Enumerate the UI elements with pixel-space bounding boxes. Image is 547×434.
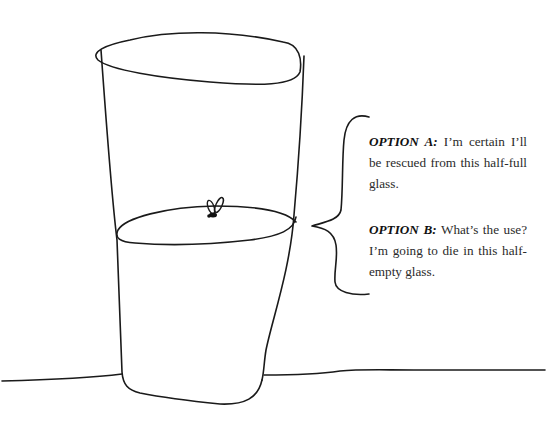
glass-right-wall xyxy=(262,56,304,380)
option-b-label: OPTION B: xyxy=(369,222,437,237)
table-line-right xyxy=(264,370,545,375)
table-line-left xyxy=(2,374,122,381)
option-a-label: OPTION A: xyxy=(369,134,438,149)
liquid-surface xyxy=(117,206,296,244)
glass-rim xyxy=(96,33,301,85)
option-a: OPTION A: I’m certain I’ll be rescued fr… xyxy=(369,131,527,194)
option-b: OPTION B: What’s the use? I’m going to d… xyxy=(369,219,527,282)
illustration-canvas: OPTION A: I’m certain I’ll be rescued fr… xyxy=(0,0,547,434)
curly-brace xyxy=(312,116,369,295)
fly-icon xyxy=(206,196,225,217)
glass-drawing xyxy=(0,0,547,434)
glass-left-wall xyxy=(101,50,262,404)
